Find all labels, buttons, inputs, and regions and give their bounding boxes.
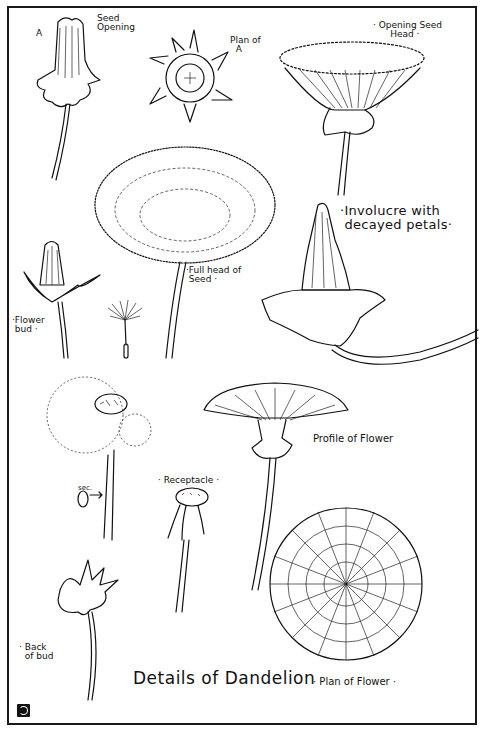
label-flower-bud: ·Flower bud · [12, 316, 45, 335]
label-profile-of-flower: Profile of Flower [313, 434, 393, 445]
label-back-of-bud: · Back of bud [19, 643, 53, 662]
label-receptacle: · Receptacle · [158, 476, 219, 485]
label-sec: sec. [78, 485, 92, 492]
plan-of-a-drawing [150, 30, 232, 122]
botanical-illustrations [0, 0, 483, 734]
partial-seed-head-drawing [47, 377, 151, 540]
seed-opening-drawing [37, 18, 100, 180]
label-seed-opening: Seed Opening [97, 14, 135, 33]
label-plan-of-a: Plan of A [230, 36, 261, 55]
profile-of-flower-drawing [204, 383, 348, 590]
single-seed-drawing [108, 300, 142, 358]
full-head-of-seed-drawing [95, 147, 275, 358]
receptacle-drawing [168, 488, 208, 612]
flower-bud-drawing [24, 242, 100, 359]
plan-of-flower-drawing [270, 508, 422, 660]
opening-seed-head-drawing [280, 42, 424, 195]
label-full-head: ·Full head of Seed · [186, 266, 241, 285]
plate-subtitle: · Plan of Flower · [313, 677, 396, 688]
monogram-icon [17, 704, 30, 717]
label-opening-seed-head: · Opening Seed Head · [373, 21, 442, 40]
label-a-marker: A [36, 29, 42, 38]
back-of-bud-drawing [58, 560, 118, 700]
label-involucre: ·Involucre with decayed petals· [340, 204, 452, 231]
plate-title: Details of Dandelion [133, 670, 315, 688]
stem-section-drawing [78, 491, 102, 507]
